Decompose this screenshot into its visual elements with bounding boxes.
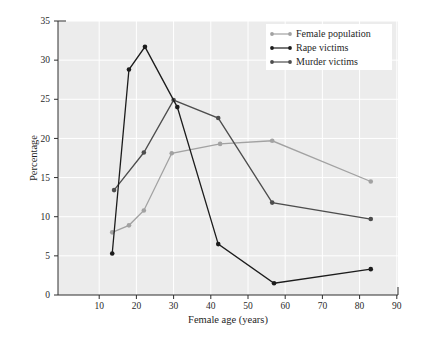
svg-text:10: 10 [94,301,104,311]
x-axis-label: Female age (years) [188,314,268,325]
data-point [110,251,115,256]
svg-text:5: 5 [45,251,50,261]
data-point [216,116,221,121]
svg-text:35: 35 [41,16,51,26]
legend-marker-icon [270,32,274,36]
legend-label: Murder victims [296,56,358,67]
svg-text:70: 70 [318,301,328,311]
svg-text:30: 30 [41,55,51,65]
data-point [368,217,373,222]
data-point [127,223,132,228]
legend-marker-icon [270,60,274,64]
legend-marker-icon [270,46,274,50]
data-point [368,179,373,184]
data-point [218,142,223,147]
data-point [127,67,132,72]
svg-text:80: 80 [355,301,365,311]
svg-text:0: 0 [45,290,50,300]
data-point [142,208,147,213]
legend-marker-icon [288,60,292,64]
line-chart: 05101520253035102030405060708090Female p… [0,0,422,347]
svg-text:20: 20 [41,134,51,144]
data-point [112,188,117,193]
svg-text:30: 30 [169,301,179,311]
svg-text:60: 60 [280,301,290,311]
svg-text:90: 90 [392,301,402,311]
data-point [142,150,147,155]
svg-text:15: 15 [41,173,51,183]
svg-text:40: 40 [206,301,216,311]
svg-text:50: 50 [243,301,253,311]
legend-label: Female population [296,28,371,39]
legend-marker-icon [288,46,292,50]
svg-text:10: 10 [41,212,51,222]
data-point [368,267,373,272]
data-point [143,45,148,50]
data-point [272,281,277,286]
data-point [169,151,174,156]
chart-figure: 05101520253035102030405060708090Female p… [0,0,422,347]
data-point [175,105,180,110]
data-point [270,138,275,143]
data-point [270,200,275,205]
legend: Female populationRape victimsMurder vict… [266,24,392,70]
legend-marker-icon [288,32,292,36]
y-axis-label: Percentage [28,135,39,181]
data-point [216,242,221,247]
legend-label: Rape victims [296,42,349,53]
svg-text:25: 25 [41,94,51,104]
svg-text:20: 20 [132,301,142,311]
